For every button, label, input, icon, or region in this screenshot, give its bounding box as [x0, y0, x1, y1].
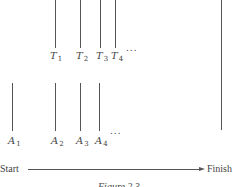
arrow-head-icon — [199, 167, 205, 171]
t2-sub: 2 — [84, 55, 88, 63]
a2-line — [55, 83, 56, 131]
a1-label: A1 — [8, 136, 21, 148]
start-label: Start — [0, 164, 19, 174]
t1-label: T1 — [50, 51, 62, 63]
a3-line — [80, 83, 81, 131]
t4-label: T4 — [111, 51, 123, 63]
t3-line — [100, 0, 101, 48]
a4-line — [99, 83, 100, 131]
top-ellipsis: ... — [126, 44, 138, 53]
t2-line — [80, 0, 81, 48]
finish-line — [221, 0, 222, 130]
a3-label: A3 — [76, 136, 89, 148]
t1-sub: 1 — [58, 55, 62, 63]
a1-line — [12, 83, 13, 131]
bottom-ellipsis: ... — [110, 127, 122, 136]
figure-caption: Figure 2.3 — [98, 182, 140, 187]
a2-base: A — [51, 135, 58, 146]
t3-sub: 3 — [104, 55, 108, 63]
t4-base: T — [111, 50, 118, 61]
a1-base: A — [8, 135, 15, 146]
t1-base: T — [50, 50, 57, 61]
t4-line — [115, 0, 116, 48]
a2-label: A2 — [51, 136, 64, 148]
t3-label: T3 — [96, 51, 108, 63]
t4-sub: 4 — [119, 55, 123, 63]
a4-sub: 4 — [103, 140, 107, 148]
a4-label: A4 — [95, 136, 108, 148]
timeline-axis — [28, 169, 200, 170]
finish-label: Finish — [207, 164, 232, 174]
t3-base: T — [96, 50, 103, 61]
t1-line — [55, 0, 56, 48]
a3-sub: 3 — [84, 140, 88, 148]
a1-sub: 1 — [16, 140, 20, 148]
a2-sub: 2 — [59, 140, 63, 148]
a4-base: A — [95, 135, 102, 146]
t2-base: T — [76, 50, 83, 61]
t2-label: T2 — [76, 51, 88, 63]
a3-base: A — [76, 135, 83, 146]
